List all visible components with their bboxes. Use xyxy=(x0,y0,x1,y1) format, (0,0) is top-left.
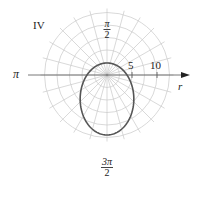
angle-label-3pi-over-2: 3π 2 xyxy=(101,157,113,178)
grid-spoke xyxy=(49,75,107,108)
r-tick-label-10: 10 xyxy=(150,59,161,71)
angle-label-pi-over-2: π 2 xyxy=(103,19,110,40)
r-axis-label: r xyxy=(178,80,182,92)
angle-label-pi: π xyxy=(13,67,19,82)
grid-spoke xyxy=(107,75,165,108)
grid-spoke xyxy=(74,75,107,133)
grid-spoke xyxy=(107,58,171,75)
axis-arrow-icon xyxy=(181,72,190,78)
grid-spoke xyxy=(107,17,140,75)
polar-plot xyxy=(0,0,197,201)
panel-label: IV xyxy=(33,19,45,31)
pole-point xyxy=(106,74,108,76)
r-tick-label-5: 5 xyxy=(128,59,134,71)
grid-spoke xyxy=(43,58,107,75)
angle-label-den: 2 xyxy=(101,168,113,178)
grid-spoke xyxy=(107,75,171,92)
angle-label-den: 2 xyxy=(103,30,110,40)
grid-spoke xyxy=(74,17,107,75)
grid-spoke xyxy=(43,75,107,92)
grid-spoke xyxy=(49,42,107,75)
grid-spoke xyxy=(107,75,140,133)
grid-spoke xyxy=(60,28,107,75)
